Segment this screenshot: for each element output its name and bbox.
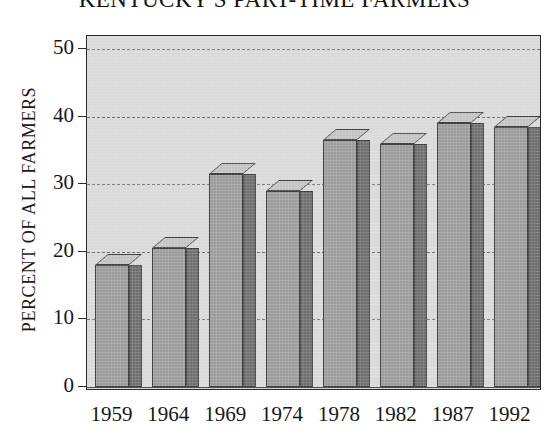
bar-top-face (266, 180, 313, 191)
bar-side-face (129, 265, 142, 387)
bar-1959 (95, 254, 129, 387)
bar-side-face (243, 174, 256, 387)
bar-front-face (95, 265, 129, 387)
bar-top-face (152, 237, 199, 248)
chart-title: KENTUCKY'S PART-TIME FARMERS (0, 0, 549, 13)
bar-1969 (209, 163, 243, 387)
bar-side-face (186, 248, 199, 387)
bar-front-face (266, 191, 300, 387)
bar-front-face (152, 248, 186, 387)
bar-top-face (437, 112, 484, 123)
y-axis-tick-label: 30 (14, 172, 74, 193)
bar-side-face (300, 191, 313, 387)
y-axis-tick-label: 50 (14, 37, 74, 58)
y-axis-tick-label: 40 (14, 105, 74, 126)
y-axis-tick-label: 10 (14, 307, 74, 328)
bar-side-face (414, 144, 427, 387)
bar-1992 (494, 116, 528, 387)
bar-1974 (266, 180, 300, 387)
bar-front-face (380, 144, 414, 387)
bar-front-face (437, 123, 471, 387)
bar-front-face (323, 140, 357, 387)
bar-top-face (494, 116, 541, 127)
bar-1978 (323, 129, 357, 387)
bar-front-face (494, 127, 528, 387)
gridline (87, 49, 540, 50)
bar-top-face (380, 133, 427, 144)
chart-root: KENTUCKY'S PART-TIME FARMERS PERCENT OF … (0, 0, 549, 443)
axis-floor (86, 387, 541, 390)
bar-top-face (323, 129, 370, 140)
x-axis-tick-label: 1992 (475, 404, 545, 425)
bar-1964 (152, 237, 186, 387)
plot-area (86, 35, 541, 390)
bar-1987 (437, 112, 471, 387)
y-axis-tick-label: 20 (14, 240, 74, 261)
bar-front-face (209, 174, 243, 387)
bar-side-face (528, 127, 541, 387)
y-axis-tick-label: 0 (14, 375, 74, 396)
bar-side-face (357, 140, 370, 387)
y-axis-title: PERCENT OF ALL FARMERS (19, 30, 40, 390)
bar-top-face (209, 163, 256, 174)
bar-side-face (471, 123, 484, 387)
bar-top-face (95, 254, 142, 265)
bar-1982 (380, 133, 414, 387)
